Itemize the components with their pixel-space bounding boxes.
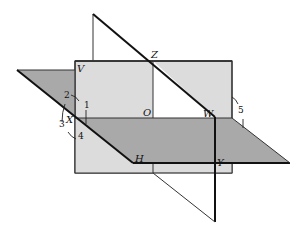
label-z: Z [150, 49, 159, 60]
label-w: W [203, 108, 214, 119]
horizontal-plane-right-wedge [215, 118, 290, 163]
three-planes-diagram: V Z O W X H Y 1 2 3 4 5 [0, 0, 302, 235]
slanted-bottom-diagonal [153, 173, 215, 222]
label-angle-3: 3 [59, 119, 65, 129]
label-angle-5: 5 [238, 105, 244, 115]
label-angle-4: 4 [78, 131, 84, 141]
label-angle-1: 1 [84, 100, 90, 110]
label-angle-2: 2 [64, 90, 70, 100]
label-o: O [143, 107, 151, 118]
angle-arc-5 [232, 97, 238, 104]
label-h: H [134, 153, 144, 164]
label-x: X [65, 114, 74, 125]
